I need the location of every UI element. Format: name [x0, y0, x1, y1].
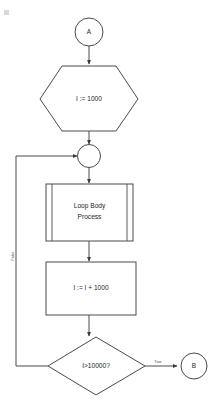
end-connector-b-label: B — [192, 362, 196, 369]
edge-label-false: False — [11, 252, 15, 261]
init-hexagon-label: I := 1000 — [76, 95, 102, 102]
loop-junction-circle[interactable] — [78, 145, 101, 168]
loop-body-label-line2: Process — [78, 213, 103, 220]
edge-label-true: True — [154, 360, 161, 364]
decision-label: I>10000? — [82, 362, 110, 369]
increment-label: I := I + 1000 — [73, 284, 109, 291]
flowchart-svg: A I := 1000 Loop Body Process I := I + 1… — [0, 0, 221, 411]
flowchart-canvas: A I := 1000 Loop Body Process I := I + 1… — [0, 0, 221, 411]
loop-body-label-line1: Loop Body — [74, 202, 106, 210]
start-connector-a-label: A — [87, 28, 92, 35]
